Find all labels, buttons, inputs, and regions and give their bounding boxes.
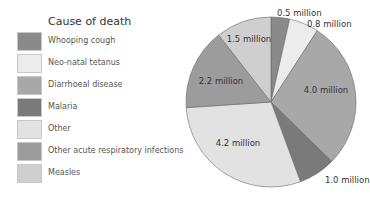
slice-value-label: 0.8 million (307, 19, 352, 29)
slice-value-label: 2.2 million (199, 76, 244, 86)
slice-value-label: 1.0 million (325, 175, 370, 185)
slice-value-label: 1.5 million (227, 34, 272, 44)
pie-chart: 0.5 million0.8 million4.0 million1.0 mil… (0, 0, 370, 198)
slice-value-label: 4.2 million (216, 138, 261, 148)
slice-value-label: 4.0 million (304, 85, 349, 95)
slice-value-label: 0.5 million (277, 8, 322, 18)
